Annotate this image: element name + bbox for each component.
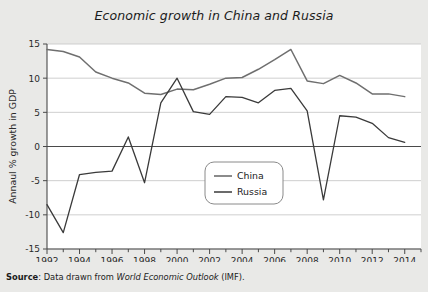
x-tick-label-2002: 2002	[198, 256, 221, 262]
source-note: Source: Data drawn from World Economic O…	[6, 272, 245, 282]
legend-box	[205, 162, 283, 204]
legend-label-china: China	[237, 170, 264, 181]
x-tick-label-2010: 2010	[328, 256, 351, 262]
y-tick-label--10: -10	[25, 210, 40, 220]
source-text-before: Data drawn from	[44, 272, 117, 282]
source-text-after: (IMF).	[219, 272, 245, 282]
chart-svg: -15-10-505101519921994199619982000200220…	[0, 0, 428, 262]
legend-label-russia: Russia	[237, 186, 267, 197]
x-tick-label-2004: 2004	[231, 256, 254, 262]
source-publication: World Economic Outlook	[117, 272, 219, 282]
x-tick-label-2014: 2014	[393, 256, 416, 262]
source-label: Source	[6, 272, 38, 282]
x-tick-label-1994: 1994	[68, 256, 91, 262]
y-tick-label--15: -15	[25, 244, 40, 254]
chart-figure: Economic growth in China and Russia -15-…	[0, 0, 428, 292]
y-axis-title: Annaul % growth in GDP	[7, 89, 18, 204]
plot-area: -15-10-505101519921994199619982000200220…	[0, 0, 428, 262]
y-tick-label-5: 5	[34, 108, 40, 118]
x-tick-label-2008: 2008	[296, 256, 319, 262]
x-tick-label-1996: 1996	[101, 256, 124, 262]
x-tick-label-2012: 2012	[361, 256, 384, 262]
y-tick-label--5: -5	[31, 176, 40, 186]
x-tick-label-2006: 2006	[263, 256, 286, 262]
x-tick-label-1992: 1992	[36, 256, 59, 262]
y-tick-label-10: 10	[29, 74, 41, 84]
y-tick-label-15: 15	[29, 39, 40, 49]
x-tick-label-2000: 2000	[166, 256, 189, 262]
y-tick-label-0: 0	[34, 142, 40, 152]
chart-legend: ChinaRussia	[205, 162, 283, 204]
x-tick-label-1998: 1998	[133, 256, 156, 262]
